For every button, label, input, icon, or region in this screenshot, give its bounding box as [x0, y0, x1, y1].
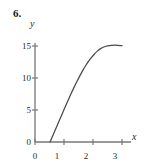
plot-svg — [0, 0, 146, 167]
axes-group — [35, 43, 131, 142]
data-curve — [50, 45, 122, 142]
figure-container: 6. y x 15 10 5 0 0 1 2 3 — [0, 0, 146, 167]
